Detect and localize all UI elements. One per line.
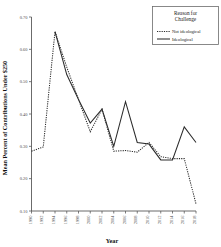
y-tick-label: 0.30 — [20, 144, 28, 149]
series-line-ideological — [55, 32, 196, 160]
x-tick-label: 1994 — [51, 215, 56, 225]
x-tick-label: 1990 — [28, 215, 33, 225]
y-tick-label: 0.10 — [20, 209, 28, 214]
x-tick-label: 2006 — [122, 215, 127, 225]
y-tick-label: 0.50 — [20, 79, 28, 84]
x-axis-ticks: 1990199219941996199820002002200420062008… — [28, 211, 198, 224]
x-tick-label: 2000 — [86, 215, 91, 225]
series-line-not-ideological — [32, 32, 197, 204]
x-tick-label: 2002 — [98, 216, 103, 225]
y-tick-label: 0.20 — [20, 176, 28, 181]
chart-figure: 0.100.200.300.400.500.600.70 19901992199… — [0, 0, 221, 247]
x-tick-label: 2014 — [169, 215, 174, 225]
x-tick-label: 2008 — [133, 215, 138, 225]
legend-title-line2: Challenge — [175, 16, 197, 22]
y-axis-title: Mean Percent of Contributions Under $250 — [1, 61, 8, 175]
y-tick-label: 0.60 — [20, 47, 28, 52]
x-tick-label: 2018 — [192, 215, 197, 225]
x-tick-label: 2016 — [180, 215, 185, 225]
legend-label-ideological: Ideological — [172, 37, 193, 42]
line-chart: 0.100.200.300.400.500.600.70 19901992199… — [0, 0, 221, 247]
series-group — [32, 32, 197, 204]
x-tick-label: 1996 — [63, 215, 68, 225]
y-tick-label: 0.70 — [20, 15, 28, 20]
chart-legend: Reason for Challenge Not ideological Ide… — [153, 7, 219, 45]
y-tick-label: 0.40 — [20, 112, 28, 117]
axis-frame — [32, 17, 197, 211]
x-tick-label: 2012 — [157, 216, 162, 225]
x-tick-label: 1998 — [75, 215, 80, 225]
x-axis-title: Year — [106, 237, 119, 244]
y-axis-ticks: 0.100.200.300.400.500.600.70 — [20, 15, 32, 214]
x-tick-label: 2010 — [145, 215, 150, 225]
x-tick-label: 2004 — [110, 215, 115, 225]
legend-title-line1: Reason for — [174, 10, 197, 16]
legend-label-not-ideological: Not ideological — [172, 29, 201, 34]
x-tick-label: 1992 — [39, 216, 44, 225]
